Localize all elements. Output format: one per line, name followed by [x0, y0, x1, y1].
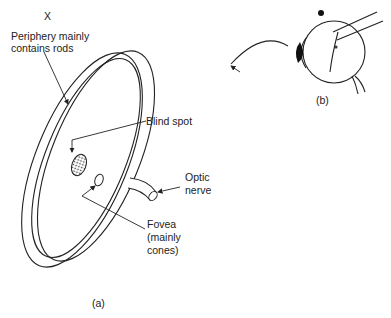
caption-b: (b) — [316, 94, 329, 107]
eyeball — [231, 12, 383, 94]
x-marker: X — [44, 10, 51, 23]
fixation-dot — [318, 10, 324, 16]
fovea-label-line2: (mainly — [147, 231, 181, 244]
fovea-label-line3: cones) — [147, 244, 179, 257]
periphery-label-line2: contains rods — [11, 42, 73, 55]
optic-nerve-label-line1: Optic — [185, 171, 210, 184]
caption-a: (a) — [92, 297, 105, 310]
optic-nerve-label-line2: nerve — [185, 184, 211, 197]
fovea — [93, 173, 105, 187]
blind-spot-label: Blind spot — [146, 115, 192, 128]
blind-spot — [69, 152, 90, 177]
fovea-label-line1: Fovea — [147, 218, 176, 231]
retina-diagram: X Periphery mainly contains rods Blind s… — [0, 0, 391, 318]
